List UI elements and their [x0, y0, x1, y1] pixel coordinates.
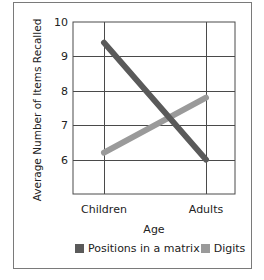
legend-item-digits: Digits: [200, 242, 246, 255]
y-tick-7: 7: [48, 119, 68, 132]
legend-label-positions: Positions in a matrix: [88, 242, 200, 255]
grid-lines: [73, 22, 235, 194]
x-tick-children: Children: [81, 203, 127, 216]
legend-swatch-positions: [75, 244, 84, 253]
y-tick-6: 6: [48, 154, 68, 167]
y-axis-label: Average Number of Items Recalled: [31, 19, 43, 202]
legend: Positions in a matrix Digits: [75, 241, 245, 255]
series-lines: [104, 43, 206, 160]
x-tick-adults: Adults: [189, 203, 223, 216]
legend-label-digits: Digits: [214, 242, 246, 255]
legend-item-positions: Positions in a matrix: [75, 242, 200, 255]
y-tick-9: 9: [48, 50, 68, 63]
y-tick-10: 10: [48, 16, 68, 29]
legend-swatch-digits: [201, 244, 210, 253]
y-tick-8: 8: [48, 85, 68, 98]
x-axis-label: Age: [143, 223, 164, 236]
